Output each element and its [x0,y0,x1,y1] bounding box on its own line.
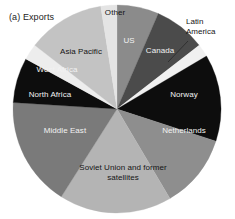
slice-label: Asia Pacific [60,47,102,57]
slice-label: US [123,36,134,46]
slice-label: Canada [146,46,174,56]
pie-chart-figure: (a) Exports OtherUSCanadaNorwayNetherlan… [0,0,235,219]
slice-label: North Africa [29,90,71,100]
slice-label: Soviet Union and formersatellites [79,163,166,182]
slice-label: Norway [170,90,197,100]
callout-label-line: America [186,27,215,37]
callout-label: LatinAmerica [186,17,215,36]
slice-label: Middle East [44,126,86,136]
slice-label: Other [105,8,125,18]
slice-label: West Africa [37,65,78,75]
slice-label-line: satellites [79,172,166,182]
callout-label-line: Latin [186,17,215,27]
pie-slice-group [13,5,221,213]
slice-label-line: Soviet Union and former [79,163,166,173]
slice-label: Netherlands [162,126,206,136]
figure-caption: (a) Exports [9,12,54,22]
